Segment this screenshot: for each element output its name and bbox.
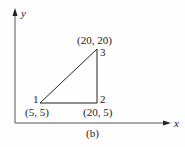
- node-2-coord: (20, 5): [83, 106, 113, 119]
- node-2: 2 (20, 5): [83, 93, 113, 119]
- diagram-svg: y x 1 (5, 5) 2 (20, 5) 3 (20, 20) (b): [0, 0, 185, 147]
- x-axis-label: x: [173, 117, 179, 129]
- node-1-number: 1: [33, 93, 39, 105]
- triangle-element-diagram: y x 1 (5, 5) 2 (20, 5) 3 (20, 20) (b): [0, 0, 185, 147]
- y-axis-arrow-icon: [13, 8, 18, 16]
- y-axis-label: y: [20, 7, 26, 19]
- node-1-coord: (5, 5): [25, 106, 49, 119]
- node-3-number: 3: [100, 46, 106, 58]
- triangle: [40, 49, 97, 103]
- edge-3-1: [40, 49, 97, 103]
- node-1: 1 (5, 5): [25, 93, 49, 119]
- node-2-number: 2: [100, 93, 106, 105]
- figure-caption: (b): [86, 127, 99, 140]
- x-axis-arrow-icon: [163, 121, 171, 126]
- node-3: 3 (20, 20): [77, 34, 112, 58]
- node-3-coord: (20, 20): [77, 34, 112, 47]
